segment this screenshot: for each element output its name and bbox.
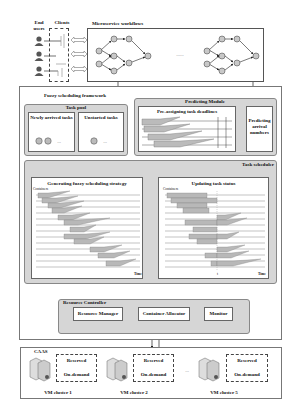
on-demand-label: On-demand <box>133 372 174 378</box>
task-circle-icon <box>90 137 98 145</box>
updating-gantt-chart <box>163 191 267 273</box>
server-icon <box>197 355 223 381</box>
task-scheduler-title: Task scheduler <box>230 162 274 168</box>
reserved-label: Reserved <box>133 358 174 364</box>
ellipsis: ... <box>100 139 110 145</box>
resource-controller-title: Resource Controller <box>63 300 123 306</box>
deadline-chart <box>140 117 234 149</box>
generating-gantt-chart <box>34 191 142 273</box>
on-demand-label: On-demand <box>56 372 97 378</box>
resource-manager-label: Resource Manager <box>73 311 123 317</box>
task-circle-icon <box>44 137 52 145</box>
unstarted-label: Unstarted tasks <box>80 115 122 121</box>
clusters-ellipsis: ... <box>180 368 194 374</box>
task-circle-icon <box>35 137 43 145</box>
ellipsis: ... <box>54 139 64 145</box>
predicting-arrival-label: Predicting arrival numbers <box>247 118 272 136</box>
reserved-label: Reserved <box>56 358 97 364</box>
monitor-label: Monitor <box>204 311 233 317</box>
on-demand-label: On-demand <box>226 372 268 378</box>
container-allocator-label: Container Allocator <box>138 311 190 317</box>
server-icon <box>28 355 54 381</box>
newly-arrived-label: Newly arrived tasks <box>30 115 73 121</box>
cluster-1-name: VM cluster 1 <box>38 390 78 396</box>
predicting-module-title: Predicting Module <box>170 99 240 105</box>
pre-assigning-label: Pre-assigning task deadlines <box>138 109 236 115</box>
server-icon <box>105 355 131 381</box>
reserved-label: Reserved <box>226 358 268 364</box>
cluster-5-name: VM cluster 5 <box>202 390 246 396</box>
task-pool-title: Task pool <box>24 105 128 111</box>
framework-title: Fuzzy scheduling framework <box>35 93 115 99</box>
cluster-2-name: VM cluster 2 <box>112 390 156 396</box>
